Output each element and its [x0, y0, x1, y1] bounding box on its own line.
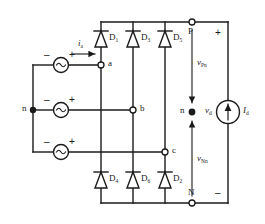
node-b-terminal	[130, 107, 136, 113]
id-label: Id	[243, 106, 249, 116]
phase-c-plus-sign: +	[69, 137, 75, 147]
terminal-p-label: P	[188, 27, 193, 36]
vnn-label: vNn	[197, 154, 208, 164]
circuit-diagram: – + – + – + ia n a b c D1 D3 D5 D4 D6 D2…	[0, 0, 265, 224]
ia-current-label: ia	[78, 39, 83, 49]
node-a-terminal	[98, 62, 104, 68]
terminal-p	[189, 19, 195, 25]
node-c-label: c	[172, 146, 176, 155]
node-neutral-left-dot	[30, 107, 36, 113]
diode-d6-triangle	[127, 172, 139, 188]
diode-d4-label: D4	[109, 174, 118, 184]
vpn-label: vPn	[197, 58, 207, 68]
phase-c-minus-sign: –	[44, 137, 50, 147]
circuit-schematic-svg	[0, 0, 265, 224]
diode-d2-triangle	[159, 172, 171, 188]
node-neutral-right-dot	[189, 109, 196, 116]
phase-b-minus-sign: –	[44, 95, 50, 105]
diode-d3-triangle	[127, 31, 139, 47]
node-b-label: b	[140, 104, 145, 113]
vd-label: vd	[205, 106, 212, 116]
node-c-terminal	[162, 149, 168, 155]
node-neutral-right-label: n	[180, 106, 185, 115]
diode-d5-triangle	[159, 31, 171, 47]
phase-a-plus-sign: +	[69, 50, 75, 60]
output-minus-sign: –	[215, 188, 221, 198]
phase-a-minus-sign: –	[44, 50, 50, 60]
diode-d1-label: D1	[109, 33, 118, 43]
diode-d4-triangle	[95, 172, 107, 188]
diode-d6-label: D6	[141, 174, 150, 184]
phase-b-plus-sign: +	[69, 95, 75, 105]
diode-d3-label: D3	[141, 33, 150, 43]
diode-d1-triangle	[95, 31, 107, 47]
diode-d5-label: D5	[173, 33, 182, 43]
terminal-n-label: N	[188, 188, 195, 197]
node-a-label: a	[108, 59, 112, 68]
diode-d2-label: D2	[173, 174, 182, 184]
node-neutral-left-label: n	[22, 104, 27, 113]
output-plus-sign: +	[215, 28, 221, 38]
terminal-n	[189, 200, 195, 206]
